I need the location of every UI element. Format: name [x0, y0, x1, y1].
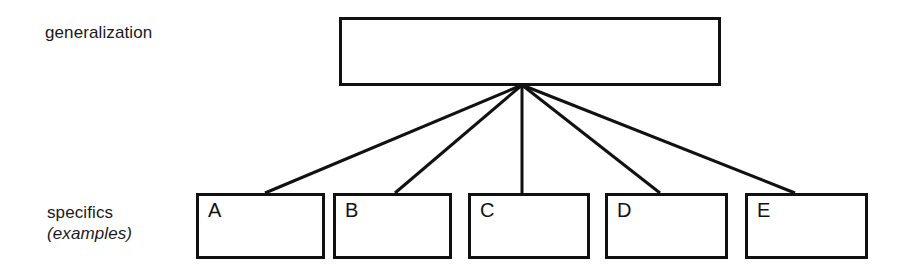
connector-line-a — [265, 85, 522, 193]
connector-line-b — [395, 85, 522, 193]
specifics-row-label-line2: (examples) — [47, 223, 132, 244]
connector-line-d — [522, 85, 660, 193]
specifics-box-label: D — [617, 199, 631, 221]
specifics-box-label: B — [345, 199, 358, 221]
connector-line-e — [522, 85, 795, 193]
specifics-row-label-line1: specifics — [47, 203, 113, 222]
generalization-specifics-diagram: generalization specifics(examples) ABCDE — [0, 0, 915, 277]
generalization-row-label: generalization — [45, 22, 152, 43]
specifics-box-e[interactable]: E — [745, 193, 868, 259]
specifics-box-a[interactable]: A — [196, 193, 325, 259]
specifics-box-c[interactable]: C — [468, 193, 590, 259]
specifics-box-d[interactable]: D — [605, 193, 728, 259]
specifics-box-label: C — [480, 199, 494, 221]
specifics-box-b[interactable]: B — [333, 193, 452, 259]
generalization-box[interactable] — [339, 17, 721, 86]
specifics-box-label: A — [208, 199, 221, 221]
specifics-row-label: specifics(examples) — [47, 202, 132, 244]
specifics-box-label: E — [757, 199, 770, 221]
